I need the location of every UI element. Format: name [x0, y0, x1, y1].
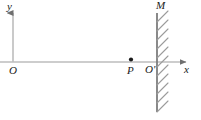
wall-label: M [156, 0, 165, 11]
y-axis-label: y [7, 1, 12, 12]
hatch-line [157, 92, 168, 103]
hatch-line [157, 65, 168, 76]
hatch-line [157, 29, 168, 40]
hatch-line [157, 74, 168, 85]
diagram-canvas [0, 0, 201, 120]
origin-prime-label: O' [145, 64, 155, 75]
origin-label: O [9, 65, 17, 76]
hatch-line [157, 101, 168, 112]
point-p-marker [129, 57, 133, 61]
hatch-line [157, 38, 168, 49]
point-p-label: P [127, 65, 134, 76]
hatch-line [157, 11, 168, 22]
hatch-line [157, 83, 168, 94]
hatch-line [157, 47, 168, 58]
x-axis-label: x [184, 64, 189, 75]
hatch-line [157, 20, 168, 31]
physics-diagram-figure: y x O P O' M [0, 0, 201, 120]
